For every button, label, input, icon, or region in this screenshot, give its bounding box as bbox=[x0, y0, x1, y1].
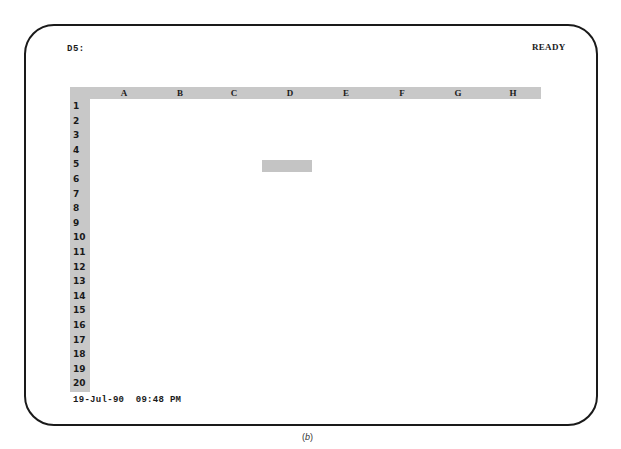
row-header-14[interactable]: 14 bbox=[73, 289, 90, 304]
status-time: 09:48 PM bbox=[136, 395, 182, 405]
row-header-6[interactable]: 6 bbox=[73, 172, 90, 187]
row-header-7[interactable]: 7 bbox=[73, 187, 90, 202]
column-header-e[interactable]: E bbox=[318, 87, 374, 99]
row-header-2[interactable]: 2 bbox=[73, 114, 90, 129]
column-header-bar: A B C D E F G H bbox=[70, 87, 541, 99]
row-header-18[interactable]: 18 bbox=[73, 347, 90, 362]
row-header-12[interactable]: 12 bbox=[73, 260, 90, 275]
row-header-9[interactable]: 9 bbox=[73, 216, 90, 231]
figure-caption: (b) bbox=[302, 432, 313, 442]
row-header-bar: 1 2 3 4 5 6 7 8 9 10 11 12 13 14 15 16 1… bbox=[70, 99, 90, 392]
row-header-15[interactable]: 15 bbox=[73, 303, 90, 318]
row-header-3[interactable]: 3 bbox=[73, 128, 90, 143]
caption-close-paren: ) bbox=[310, 432, 313, 442]
row-header-4[interactable]: 4 bbox=[73, 143, 90, 158]
row-header-16[interactable]: 16 bbox=[73, 318, 90, 333]
row-header-17[interactable]: 17 bbox=[73, 333, 90, 348]
row-header-11[interactable]: 11 bbox=[73, 245, 90, 260]
row-header-5[interactable]: 5 bbox=[73, 157, 90, 172]
row-header-10[interactable]: 10 bbox=[73, 230, 90, 245]
mode-indicator: READY bbox=[532, 42, 566, 52]
column-header-b[interactable]: B bbox=[152, 87, 208, 99]
column-header-a[interactable]: A bbox=[96, 87, 152, 99]
monitor-screen-frame bbox=[24, 24, 598, 426]
cell-pointer-d5[interactable] bbox=[262, 160, 312, 172]
column-header-f[interactable]: F bbox=[374, 87, 430, 99]
row-header-13[interactable]: 13 bbox=[73, 274, 90, 289]
cell-address-indicator: D5: bbox=[67, 44, 85, 54]
status-date: 19-Jul-90 bbox=[73, 395, 124, 405]
status-line: 19-Jul-90 09:48 PM bbox=[73, 395, 181, 405]
row-header-8[interactable]: 8 bbox=[73, 201, 90, 216]
column-header-c[interactable]: C bbox=[206, 87, 262, 99]
column-header-h[interactable]: H bbox=[485, 87, 541, 99]
column-header-g[interactable]: G bbox=[430, 87, 486, 99]
column-header-d[interactable]: D bbox=[262, 87, 318, 99]
row-header-20[interactable]: 20 bbox=[73, 376, 90, 391]
row-header-1[interactable]: 1 bbox=[73, 99, 90, 114]
row-header-19[interactable]: 19 bbox=[73, 362, 90, 377]
